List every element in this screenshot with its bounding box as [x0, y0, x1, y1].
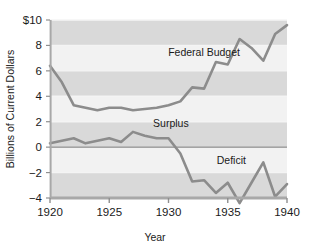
y-tick-label: −4 [29, 192, 43, 204]
chart-figure: 19201925193019351940 −4−202468$10 Federa… [0, 0, 310, 248]
y-tick-label: $10 [23, 14, 42, 26]
grid-band [50, 147, 287, 172]
x-tick-label: 1935 [215, 206, 241, 218]
federal-budget-line-chart: 19201925193019351940 −4−202468$10 Federa… [0, 0, 310, 248]
y-tick-label: 0 [36, 141, 42, 153]
x-axis-title: Year [144, 231, 166, 243]
y-tick-label: 4 [36, 90, 43, 102]
x-tick-label: 1940 [274, 206, 300, 218]
series-annotation: Federal Budget [168, 46, 240, 58]
y-tick-label: 2 [36, 116, 42, 128]
series-annotation: Surplus [153, 117, 189, 129]
grid-band [50, 71, 287, 96]
y-axis-title: Billions of Current Dollars [4, 50, 16, 168]
grid-band [50, 20, 287, 45]
x-tick-label: 1930 [156, 206, 182, 218]
series-annotation: Deficit [217, 154, 246, 166]
y-tick-label: −2 [29, 167, 42, 179]
y-tick-label: 8 [36, 39, 42, 51]
x-tick-label: 1925 [96, 206, 122, 218]
y-tick-label: 6 [36, 65, 42, 77]
x-tick-label: 1920 [37, 206, 63, 218]
